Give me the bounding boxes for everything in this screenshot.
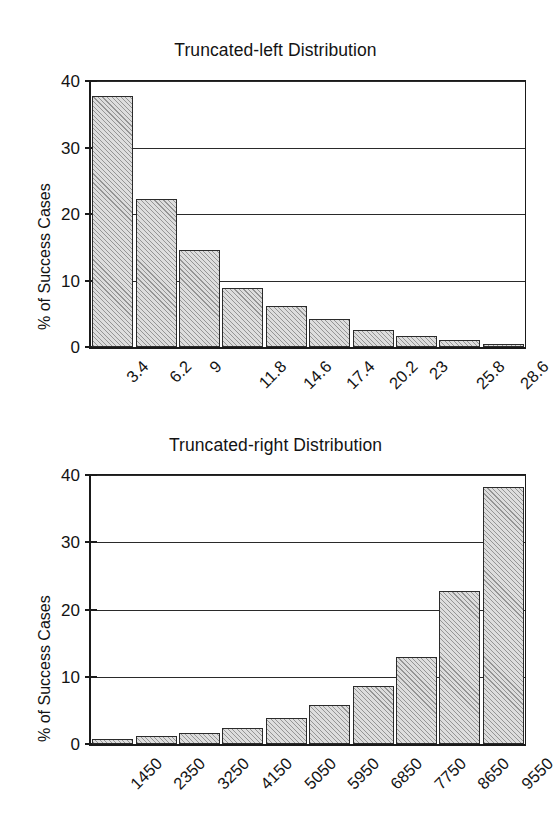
bar bbox=[483, 487, 524, 744]
y-tick-label: 20 bbox=[61, 601, 80, 618]
chart-truncated-right: Truncated-right Distribution % of Succes… bbox=[0, 420, 551, 821]
y-tick-label: 0 bbox=[71, 339, 80, 356]
x-tick-label: 9 bbox=[205, 357, 225, 377]
bar bbox=[92, 739, 133, 744]
plot-area: 010203040 bbox=[89, 80, 526, 349]
bar bbox=[92, 96, 133, 347]
bar bbox=[309, 319, 350, 347]
x-tick-label: 6850 bbox=[387, 754, 426, 793]
bar bbox=[136, 199, 177, 347]
y-tick-label: 10 bbox=[61, 272, 80, 289]
chart-truncated-left: Truncated-left Distribution % of Success… bbox=[0, 0, 551, 420]
y-tick-label: 20 bbox=[61, 206, 80, 223]
bar bbox=[266, 306, 307, 347]
y-tick-label: 40 bbox=[61, 467, 80, 484]
y-axis-title: % of Success Cases bbox=[36, 595, 54, 742]
bar bbox=[266, 718, 307, 744]
x-tick-label: 25.8 bbox=[473, 357, 509, 393]
x-axis-tick-labels: 3.46.2911.814.617.420.22325.828.6 bbox=[89, 351, 526, 421]
bars-group bbox=[91, 475, 525, 744]
bar bbox=[136, 736, 177, 744]
bar bbox=[483, 344, 524, 347]
x-axis-tick-labels: 1450235032504150505059506850775086509550 bbox=[89, 748, 526, 818]
y-axis-title: % of Success Cases bbox=[36, 183, 54, 330]
bar bbox=[309, 705, 350, 744]
bar bbox=[222, 728, 263, 744]
y-tick-label: 10 bbox=[61, 668, 80, 685]
x-tick-label: 23 bbox=[425, 357, 451, 383]
x-tick-label: 9550 bbox=[517, 754, 556, 793]
chart-title: Truncated-left Distribution bbox=[0, 40, 551, 61]
bar bbox=[353, 330, 394, 347]
x-tick-label: 7750 bbox=[430, 754, 469, 793]
x-tick-label: 6.2 bbox=[166, 357, 196, 387]
x-tick-label: 1450 bbox=[127, 754, 166, 793]
bar bbox=[179, 250, 220, 347]
x-tick-label: 4150 bbox=[257, 754, 296, 793]
bar bbox=[439, 340, 480, 347]
x-tick-label: 3250 bbox=[213, 754, 252, 793]
bar bbox=[353, 686, 394, 745]
x-tick-label: 2350 bbox=[170, 754, 209, 793]
x-tick-label: 11.8 bbox=[255, 357, 290, 392]
x-tick-label: 3.4 bbox=[123, 357, 153, 387]
y-tick-label: 40 bbox=[61, 73, 80, 90]
bar bbox=[439, 591, 480, 744]
x-tick-label: 8650 bbox=[474, 754, 513, 793]
chart-title: Truncated-right Distribution bbox=[0, 435, 551, 456]
bar bbox=[222, 288, 263, 347]
bars-group bbox=[91, 81, 525, 347]
x-tick-label: 14.6 bbox=[299, 357, 335, 393]
bar bbox=[396, 336, 437, 347]
bar bbox=[179, 733, 220, 744]
bar bbox=[396, 657, 437, 744]
x-tick-label: 5050 bbox=[300, 754, 339, 793]
y-tick-label: 30 bbox=[61, 534, 80, 551]
x-tick-label: 20.2 bbox=[386, 357, 422, 393]
y-tick-label: 30 bbox=[61, 139, 80, 156]
plot-area: 010203040 bbox=[89, 474, 526, 746]
x-tick-label: 28.6 bbox=[516, 357, 552, 393]
y-tick-label: 0 bbox=[71, 736, 80, 753]
x-tick-label: 17.4 bbox=[342, 357, 378, 393]
x-tick-label: 5950 bbox=[344, 754, 383, 793]
